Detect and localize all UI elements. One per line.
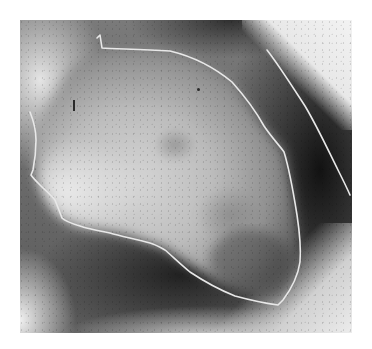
epicardial-outline <box>267 50 350 195</box>
ventricular-outline <box>30 35 300 305</box>
tracing-overlay <box>0 0 372 349</box>
